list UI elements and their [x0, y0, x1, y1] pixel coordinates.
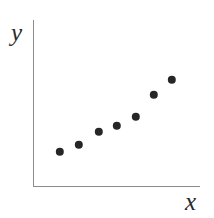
data-point: [150, 91, 158, 99]
data-point: [75, 141, 83, 149]
y-axis-label: y: [11, 20, 22, 45]
scatter-plot-figure: y x: [0, 0, 214, 218]
x-axis-label: x: [185, 189, 196, 214]
data-point: [132, 113, 140, 121]
data-point: [113, 122, 121, 130]
data-point: [168, 76, 176, 84]
y-axis-line: [33, 20, 34, 187]
x-axis-line: [33, 186, 200, 187]
data-point: [95, 128, 103, 136]
data-point: [56, 148, 64, 156]
